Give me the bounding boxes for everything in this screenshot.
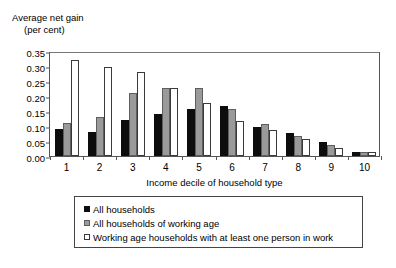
bar-series-0-decile-9 [319, 142, 327, 156]
bar-series-2-decile-9 [335, 148, 343, 156]
y-axis-title: Average net gain (per cent) [12, 12, 84, 35]
bar-group [116, 53, 149, 156]
bar-series-container [50, 53, 379, 156]
bar-group [50, 53, 83, 156]
x-axis-tick-label: 10 [359, 162, 370, 173]
x-axis-tick-mark [249, 156, 250, 160]
legend-item[interactable]: All households [84, 202, 362, 216]
x-axis-tick-mark [315, 156, 316, 160]
y-axis-title-line1: Average net gain [12, 12, 84, 23]
x-axis-title: Income decile of household type [49, 177, 380, 188]
legend-item[interactable]: All households of working age [84, 216, 362, 230]
x-axis-tick-label: 9 [329, 162, 335, 173]
y-axis-title-line2: (per cent) [12, 24, 84, 36]
bar-group [282, 53, 315, 156]
x-axis-tick-mark [216, 156, 217, 160]
bar-series-0-decile-10 [352, 152, 360, 157]
bar-chart-figure: Average net gain (per cent) 0.350.300.25… [0, 0, 396, 268]
bar-series-1-decile-7 [261, 124, 269, 156]
x-axis-tick-label: 5 [196, 162, 202, 173]
x-axis-tick-mark [348, 156, 349, 160]
bar-series-2-decile-7 [269, 130, 277, 156]
x-axis-tick-mark [83, 156, 84, 160]
bar-series-0-decile-8 [286, 133, 294, 156]
bar-group [348, 53, 381, 156]
plot-area: 0.350.300.250.200.150.100.050.00 1234567… [49, 52, 380, 157]
bar-series-0-decile-6 [220, 106, 228, 156]
x-axis-tick-mark [381, 156, 382, 160]
x-axis-tick-mark [116, 156, 117, 160]
bar-series-2-decile-8 [302, 139, 310, 156]
x-axis-tick-mark [149, 156, 150, 160]
bar-series-2-decile-5 [203, 103, 211, 156]
x-axis-tick-label: 2 [97, 162, 103, 173]
chart-legend: All householdsAll households of working … [74, 196, 363, 248]
bar-series-0-decile-3 [121, 120, 129, 156]
x-axis-tick-label: 7 [262, 162, 268, 173]
x-axis-tick-label: 8 [295, 162, 301, 173]
x-axis-tick-mark [182, 156, 183, 160]
bar-series-1-decile-2 [96, 117, 104, 156]
x-axis-tick-mark [50, 156, 51, 160]
bar-series-1-decile-8 [294, 136, 302, 156]
bar-series-1-decile-9 [327, 145, 335, 156]
x-axis-tick-mark [282, 156, 283, 160]
bar-group [249, 53, 282, 156]
bar-series-0-decile-5 [187, 109, 195, 156]
gray-square-swatch [84, 220, 90, 226]
bar-series-0-decile-2 [88, 132, 96, 156]
x-axis-tick-label: 1 [64, 162, 70, 173]
bar-series-2-decile-1 [71, 60, 79, 156]
black-square-swatch [84, 206, 90, 212]
legend-item-label: All households [93, 204, 155, 215]
bar-series-2-decile-6 [236, 121, 244, 156]
legend-item-label: All households of working age [93, 218, 219, 229]
bar-series-2-decile-3 [137, 72, 145, 156]
bar-group [83, 53, 116, 156]
legend-item[interactable]: Working age households with at least one… [84, 230, 362, 244]
bar-series-1-decile-1 [63, 123, 71, 156]
x-axis-tick-label: 3 [130, 162, 136, 173]
bar-series-1-decile-5 [195, 88, 203, 156]
bar-series-1-decile-6 [228, 109, 236, 156]
bar-series-2-decile-2 [104, 67, 112, 156]
bar-group [182, 53, 215, 156]
x-axis-tick-label: 6 [229, 162, 235, 173]
bar-series-0-decile-1 [55, 129, 63, 156]
bar-series-1-decile-3 [129, 93, 137, 156]
bar-series-2-decile-10 [368, 152, 376, 157]
bar-group [149, 53, 182, 156]
bar-series-2-decile-4 [170, 88, 178, 156]
bar-series-0-decile-7 [253, 127, 261, 156]
legend-item-label: Working age households with at least one… [93, 232, 333, 243]
bar-series-1-decile-10 [360, 152, 368, 156]
bar-group [216, 53, 249, 156]
bar-series-0-decile-4 [154, 114, 162, 156]
white-square-swatch [84, 234, 90, 240]
x-axis-tick-label: 4 [163, 162, 169, 173]
bar-group [315, 53, 348, 156]
bar-series-1-decile-4 [162, 88, 170, 156]
